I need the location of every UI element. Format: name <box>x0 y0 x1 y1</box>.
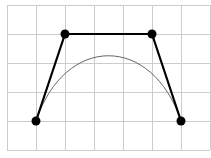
bezier-diagram <box>0 0 211 158</box>
bezier-curve <box>36 56 181 121</box>
control-point[interactable] <box>32 117 41 126</box>
grid <box>7 5 211 151</box>
control-point[interactable] <box>148 30 157 39</box>
control-polygon <box>36 34 181 121</box>
control-point[interactable] <box>61 30 70 39</box>
control-point[interactable] <box>177 117 186 126</box>
control-points <box>32 30 186 126</box>
